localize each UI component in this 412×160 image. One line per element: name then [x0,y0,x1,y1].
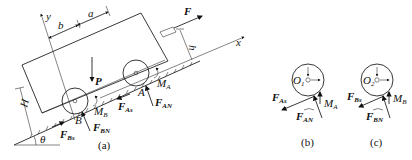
dim-h-label: h [187,45,199,51]
panel-c: O2 FBs FBN MB (c) [346,64,407,149]
O2-label: O2 [363,74,375,88]
force-FBN-arrow [82,112,90,131]
x-axis-label: x [235,36,241,48]
force-FAN-arrow-b [314,96,322,118]
force-F-arrow [174,16,202,28]
caption-c: (c) [370,136,383,149]
force-FAs-label-b: FAs [271,91,287,105]
moment-MA-label: MA [156,77,171,91]
force-FBN-label: FBN [92,121,111,135]
force-FBs-label: FBs [59,128,75,142]
panel-a: θ x y b a F h H [14,5,244,152]
force-FAN-label: FAN [154,96,173,110]
wheel-A [123,60,149,86]
force-FBs-arrow [52,122,64,127]
dim-H-label: H [17,97,31,110]
moment-MA-label-b: MA [323,97,338,111]
dim-b-label: b [58,19,64,31]
point-B-label: B [75,114,82,126]
wheel-B [62,88,88,114]
dim-a-label: a [88,7,94,19]
panel-b: O1 FAs FAN MA (b) [271,64,338,149]
force-FBs-label-c: FBs [346,90,362,104]
dimension-b-a: b a [49,6,110,38]
dim-H-line [20,88,32,135]
x-axis [100,37,244,98]
vehicle-on-incline-diagram: θ x y b a F h H [0,0,412,160]
force-FBN-label-c: FBN [365,110,384,124]
caption-b: (b) [301,136,314,149]
angle-arc [34,136,36,145]
force-FAN-label-b: FAN [295,110,314,124]
moment-MB-label: MB [93,105,108,119]
caption-a: (a) [98,139,111,152]
weight-P-label: P [95,75,102,87]
angle-theta-label: θ [40,133,46,145]
vehicle-body [22,13,168,113]
force-FBs-arrow-c [359,96,384,107]
O1-label: O1 [293,74,304,88]
force-FAs-label: FAs [117,100,133,114]
force-FAN-arrow [146,86,153,106]
incline-hatching [30,62,192,138]
force-F-label: F [183,5,192,17]
force-FAs-arrow-b [282,96,315,110]
tow-hitch [160,27,176,37]
y-axis-label: y [45,10,51,22]
moment-MB-label-c: MB [392,92,407,106]
point-A-label: A [137,86,145,98]
